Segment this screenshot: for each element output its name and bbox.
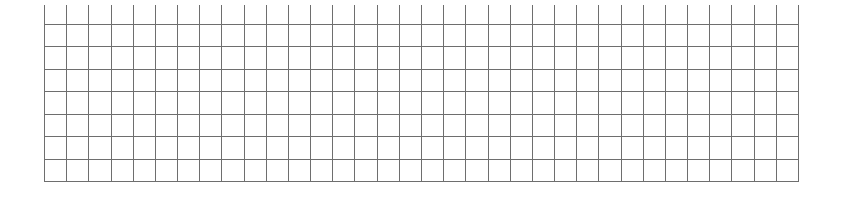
grid-vertical-line xyxy=(354,5,355,182)
grid-vertical-line xyxy=(731,5,732,182)
grid-vertical-line xyxy=(532,5,533,182)
grid-vertical-line xyxy=(44,5,45,182)
grid-vertical-line xyxy=(776,5,777,182)
grid-horizontal-line xyxy=(44,159,799,160)
grid-vertical-line xyxy=(377,5,378,182)
grid-vertical-line xyxy=(687,5,688,182)
grid-horizontal-line xyxy=(44,136,799,137)
grid-vertical-line xyxy=(88,5,89,182)
grid-vertical-line xyxy=(510,5,511,182)
grid-vertical-line xyxy=(554,5,555,182)
grid-vertical-line xyxy=(754,5,755,182)
grid-vertical-line xyxy=(798,5,799,182)
grid-vertical-line xyxy=(443,5,444,182)
grid-vertical-line xyxy=(465,5,466,182)
grid-horizontal-line xyxy=(44,91,799,92)
grid-horizontal-line xyxy=(44,181,799,182)
grid-vertical-line xyxy=(488,5,489,182)
grid-vertical-line xyxy=(221,5,222,182)
grid-vertical-line xyxy=(643,5,644,182)
grid-vertical-line xyxy=(66,5,67,182)
grid-vertical-line xyxy=(177,5,178,182)
blank-grid xyxy=(0,0,846,199)
grid-vertical-line xyxy=(111,5,112,182)
grid-horizontal-line xyxy=(44,24,799,25)
grid-vertical-line xyxy=(288,5,289,182)
grid-vertical-line xyxy=(576,5,577,182)
grid-vertical-line xyxy=(332,5,333,182)
grid-vertical-line xyxy=(399,5,400,182)
grid-vertical-line xyxy=(199,5,200,182)
grid-vertical-line xyxy=(133,5,134,182)
grid-horizontal-line xyxy=(44,114,799,115)
grid-vertical-line xyxy=(155,5,156,182)
grid-vertical-line xyxy=(266,5,267,182)
grid-vertical-line xyxy=(665,5,666,182)
grid-vertical-line xyxy=(421,5,422,182)
grid-vertical-line xyxy=(709,5,710,182)
grid-horizontal-line xyxy=(44,69,799,70)
grid-vertical-line xyxy=(244,5,245,182)
grid-vertical-line xyxy=(598,5,599,182)
grid-vertical-line xyxy=(310,5,311,182)
grid-vertical-line xyxy=(621,5,622,182)
grid-horizontal-line xyxy=(44,46,799,47)
